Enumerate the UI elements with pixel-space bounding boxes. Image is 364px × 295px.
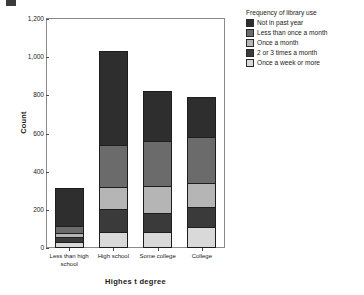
bar-stack — [55, 188, 84, 248]
legend-item[interactable]: Once a week or more — [246, 59, 364, 68]
y-axis-tick-label: 1,000 — [28, 53, 44, 60]
bar-stack — [143, 91, 172, 248]
bar-segment — [187, 227, 216, 248]
x-tick-line1: Less than high — [50, 253, 89, 259]
bar-segment — [143, 186, 172, 213]
legend-swatch-icon — [246, 49, 254, 57]
bar-segment — [187, 207, 216, 228]
chart-legend: Frequency of library use Not in past yea… — [246, 9, 364, 69]
x-axis-tick-label: Some college — [136, 253, 180, 261]
legend-item-label: Once a month — [257, 39, 298, 47]
x-tick-line2: school — [60, 261, 77, 267]
legend-swatch-icon — [246, 59, 254, 67]
bar-segment — [99, 187, 128, 210]
bar-segment — [55, 188, 84, 227]
legend-item[interactable]: Not in past year — [246, 19, 364, 28]
bar-segment — [187, 137, 216, 184]
bar-stack — [187, 97, 216, 248]
y-axis-tick-mark — [46, 172, 49, 173]
legend-item[interactable]: Less than once a month — [246, 29, 364, 38]
legend-item-label: Not in past year — [257, 19, 303, 27]
bar-segment — [187, 183, 216, 207]
y-axis-tick-mark — [46, 95, 49, 96]
legend-items: Not in past yearLess than once a monthOn… — [246, 19, 364, 68]
bar-segment — [143, 232, 172, 248]
x-axis-tick-mark — [69, 248, 70, 251]
bar-segment — [99, 209, 128, 233]
x-axis-title: Highes t degree — [46, 277, 225, 286]
y-axis-tick-label: 200 — [33, 205, 44, 212]
y-axis-tick-mark — [46, 57, 49, 58]
legend-item[interactable]: Once a month — [246, 39, 364, 48]
legend-item-label: Once a week or more — [257, 59, 320, 67]
legend-swatch-icon — [246, 39, 254, 47]
bar-segment — [143, 213, 172, 233]
x-tick-line1: College — [192, 253, 212, 259]
x-axis-tick-mark — [202, 248, 203, 251]
x-axis-tick-mark — [158, 248, 159, 251]
x-axis-tick-mark — [113, 248, 114, 251]
bar-segment — [99, 145, 128, 188]
x-axis-tick-label: High school — [91, 253, 135, 261]
bar-segment — [99, 51, 128, 146]
legend-item-label: 2 or 3 times a month — [257, 49, 317, 57]
x-tick-line1: Some college — [139, 253, 175, 259]
y-axis-tick-label: 0 — [40, 244, 44, 251]
y-axis-tick-label: 800 — [33, 91, 44, 98]
y-axis-tick-mark — [46, 134, 49, 135]
x-axis-tick-label: Less than highschool — [47, 253, 91, 268]
legend-swatch-icon — [246, 19, 254, 27]
chart-root: Count 02004006008001,0001,200 Highes t d… — [0, 0, 364, 295]
legend-item[interactable]: 2 or 3 times a month — [246, 49, 364, 58]
bar-segment — [187, 97, 216, 138]
y-axis-tick-mark — [46, 248, 49, 249]
bar-segment — [143, 91, 172, 142]
legend-item-label: Less than once a month — [257, 29, 327, 37]
legend-title: Frequency of library use — [246, 9, 364, 16]
y-axis-tick-mark — [46, 210, 49, 211]
y-axis-tick-label: 600 — [33, 129, 44, 136]
caption-fragment — [6, 0, 16, 6]
x-tick-line1: High school — [98, 253, 129, 259]
y-axis-tick-label: 1,200 — [28, 15, 44, 22]
bar-segment — [99, 232, 128, 248]
y-axis-tick-mark — [46, 19, 49, 20]
y-axis-tick-label: 400 — [33, 167, 44, 174]
legend-swatch-icon — [246, 29, 254, 37]
y-axis-ticks: 02004006008001,0001,200 — [0, 18, 44, 248]
bar-segment — [143, 141, 172, 188]
bar-stack — [99, 51, 128, 248]
x-axis-tick-label: College — [180, 253, 224, 261]
